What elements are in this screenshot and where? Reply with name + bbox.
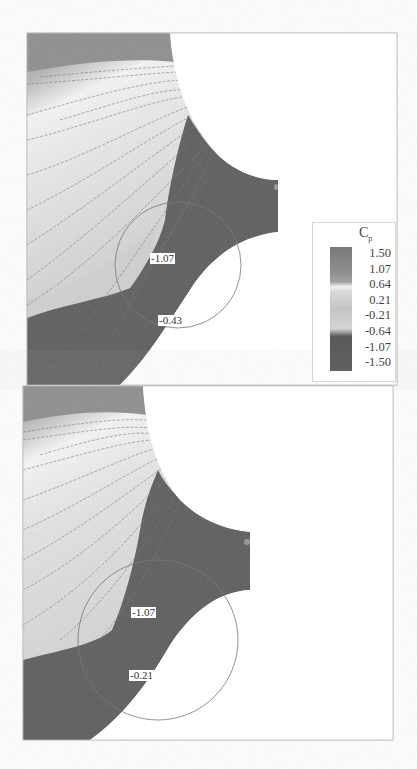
- legend-variable: C: [359, 225, 368, 240]
- contour-label: -0.21: [129, 670, 154, 681]
- legend-subscript: p: [368, 234, 372, 243]
- contour-label: -1.07: [150, 253, 175, 264]
- legend-tick: -0.64: [357, 324, 391, 340]
- legend-tick: 0.64: [357, 277, 391, 293]
- pressure-contour-plot-bottom: [0, 0, 417, 769]
- colorbar-legend: Cp 1.50 1.07 0.64 0.21 -0.21 -0.64 -1.07…: [312, 222, 396, 382]
- legend-tick: 0.21: [357, 293, 391, 309]
- legend-tick: -1.50: [357, 355, 391, 371]
- legend-ticks: 1.50 1.07 0.64 0.21 -0.21 -0.64 -1.07 -1…: [357, 246, 391, 371]
- contour-label: -0.43: [158, 315, 183, 326]
- contour-panel-bottom: [0, 0, 417, 769]
- legend-tick: -0.21: [357, 308, 391, 324]
- legend-title: Cp: [359, 225, 372, 243]
- legend-tick: 1.07: [357, 262, 391, 278]
- colorbar: [330, 247, 352, 371]
- legend-tick: 1.50: [357, 246, 391, 262]
- legend-tick: -1.07: [357, 340, 391, 356]
- contour-label: -1.07: [131, 607, 156, 618]
